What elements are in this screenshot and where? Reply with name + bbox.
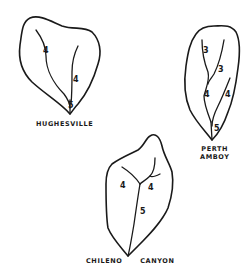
watershed-diagram: 4 4 5 3 3 4 4 5 4 4 5 xyxy=(0,0,249,274)
perth-amboy-stream-right xyxy=(212,78,230,126)
perth-amboy-basin: 3 3 4 4 5 xyxy=(185,26,240,140)
perth-amboy-label: PERTH AMBOY xyxy=(200,145,229,161)
perth-amboy-order-label: 3 xyxy=(203,46,209,55)
chileno-canyon-stream-right-upper xyxy=(140,158,155,184)
chileno-canyon-order-label: 4 xyxy=(148,183,154,192)
hughesville-label: HUGHESVILLE xyxy=(36,120,93,128)
hughesville-outline xyxy=(20,17,101,114)
chileno-canyon-label-line-2: CANYON xyxy=(140,257,174,265)
perth-amboy-label-line-1: PERTH xyxy=(200,145,229,153)
perth-amboy-label-line-2: AMBOY xyxy=(200,153,229,161)
hughesville-label-text: HUGHESVILLE xyxy=(36,120,93,128)
perth-amboy-order-label: 3 xyxy=(218,65,224,74)
chileno-canyon-label-line-1: CHILENO xyxy=(86,257,122,265)
chileno-canyon-order-label: 4 xyxy=(120,181,126,190)
hughesville-basin: 4 4 5 xyxy=(20,17,101,114)
hughesville-order-label: 4 xyxy=(73,75,79,84)
perth-amboy-order-label: 4 xyxy=(204,90,210,99)
perth-amboy-stream-upper-right xyxy=(208,40,224,84)
hughesville-order-label: 4 xyxy=(43,46,49,55)
chileno-canyon-basin: 4 4 5 xyxy=(106,135,173,256)
chileno-canyon-outline xyxy=(106,135,173,256)
hughesville-order-label: 5 xyxy=(68,101,74,110)
perth-amboy-order-label: 5 xyxy=(214,124,220,133)
hughesville-stream-left xyxy=(36,30,70,108)
chileno-canyon-label: CHILENO CANYON xyxy=(86,257,186,265)
chileno-canyon-order-label: 5 xyxy=(140,207,146,216)
perth-amboy-order-label: 4 xyxy=(225,90,231,99)
